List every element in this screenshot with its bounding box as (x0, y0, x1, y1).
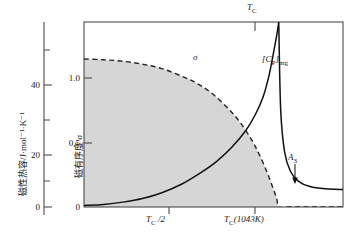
left-axis-minor-ticks (44, 50, 50, 181)
chart-plot-area (0, 0, 354, 248)
a3-leader-arrow (292, 164, 298, 184)
left-axis-major-ticks (44, 85, 52, 207)
x-axis-ticks (169, 207, 255, 214)
figure-canvas: 磁性热容/J·mol⁻¹·K⁻¹ 40 20 0 磁有序度 σ 1.0 0.5 … (0, 0, 354, 248)
